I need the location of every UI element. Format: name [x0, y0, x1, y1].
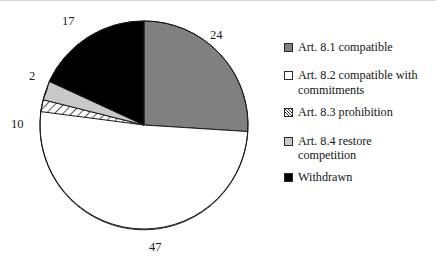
black-square-swatch-icon	[284, 173, 293, 182]
chart-legend: Art. 8.1 compatible Art. 8.2 compatible …	[284, 40, 432, 199]
hatched-square-swatch-icon	[284, 108, 293, 117]
top-divider	[0, 0, 436, 1]
light-gray-square-swatch-icon	[284, 137, 293, 146]
pie-data-label-art-8-1-compatible: 24	[210, 29, 223, 42]
legend-label-art-8-2-compatible-with-commitments: Art. 8.2 compatible with commitments	[298, 68, 432, 97]
legend-label-art-8-1-compatible: Art. 8.1 compatible	[298, 40, 393, 54]
pie-data-label-art-8-4-restore-competition: 2	[29, 70, 35, 83]
legend-label-art-8-4-restore-competition: Art. 8.4 restore competition	[298, 134, 432, 163]
legend-item-withdrawn: Withdrawn	[284, 170, 432, 184]
pie-data-label-withdrawn: 17	[62, 15, 75, 28]
pie-data-label-art-8-3-prohibition: 10	[11, 118, 24, 131]
legend-item-art-8-4-restore-competition: Art. 8.4 restore competition	[284, 134, 432, 163]
pie-chart-figure: 24 47 10 2 17 Art. 8.1 compatible Art. 8…	[0, 0, 436, 262]
legend-item-art-8-2-compatible-with-commitments: Art. 8.2 compatible with commitments	[284, 68, 432, 97]
gray-square-swatch-icon	[284, 43, 293, 52]
legend-item-art-8-1-compatible: Art. 8.1 compatible	[284, 40, 432, 54]
pie-chart-plot-area	[38, 19, 250, 231]
pie-slice-art-8-1-compatible	[144, 21, 248, 132]
legend-label-art-8-3-prohibition: Art. 8.3 prohibition	[298, 105, 393, 119]
white-square-swatch-icon	[284, 71, 293, 80]
legend-label-withdrawn: Withdrawn	[298, 170, 352, 184]
legend-item-art-8-3-prohibition: Art. 8.3 prohibition	[284, 105, 432, 119]
pie-data-label-art-8-2-compatible-with-commitments: 47	[149, 241, 162, 254]
pie-chart-svg	[38, 19, 250, 231]
